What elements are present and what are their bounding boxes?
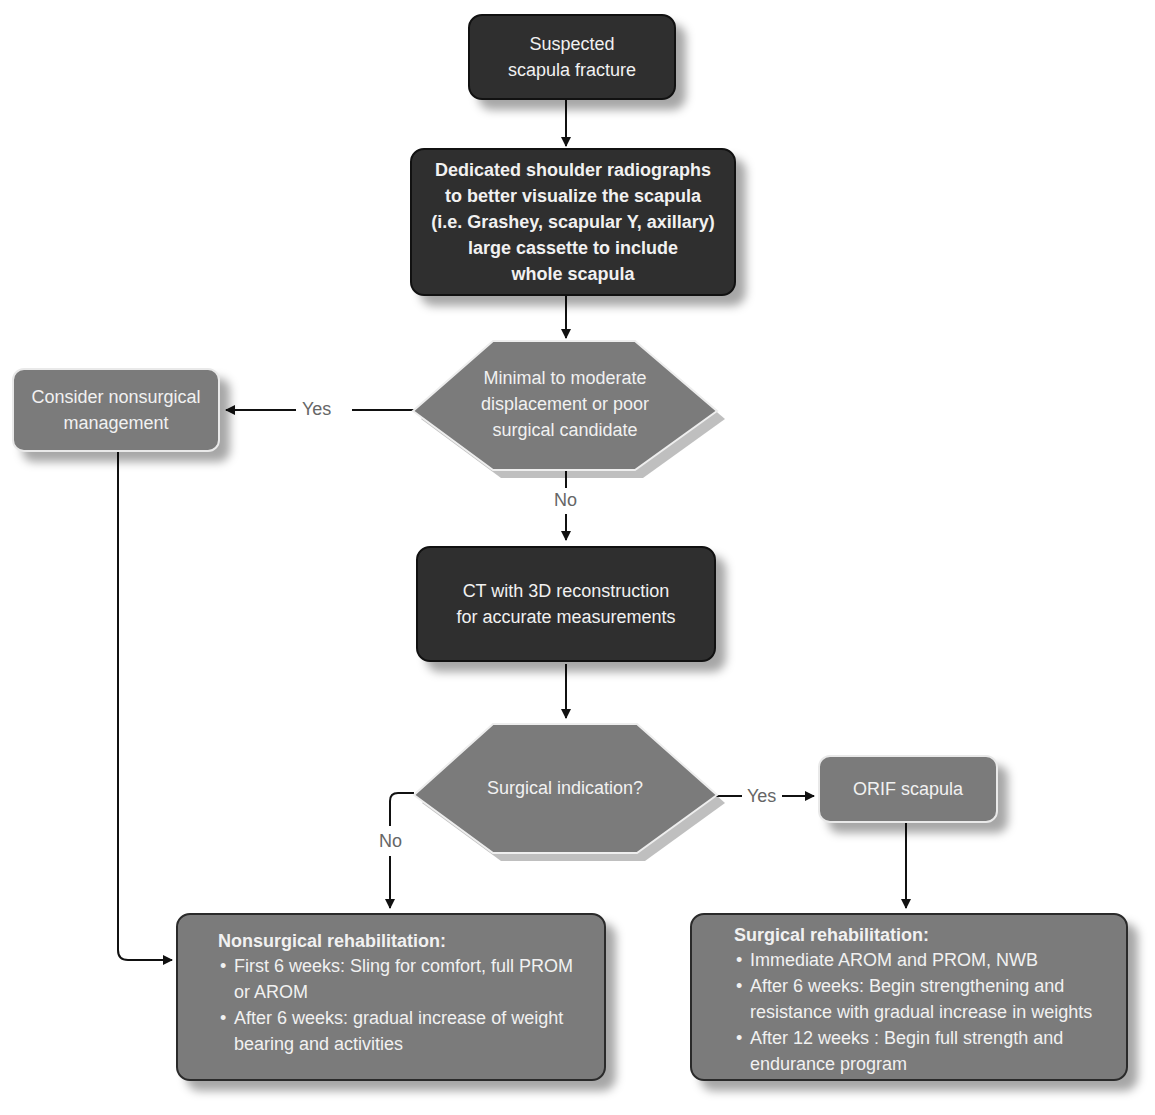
no-label: No [375,831,406,852]
yes-label: Yes [298,399,335,420]
radiographs-line: to better visualize the scapula [445,183,701,209]
radiographs-line: Dedicated shoulder radiographs [435,157,711,183]
surgical-decision: Surgical indication? [450,770,680,806]
radiographs-node: Dedicated shoulder radiographs to better… [410,148,736,296]
surgical-rehab-list: Immediate AROM and PROM, NWB After 6 wee… [734,947,1106,1077]
list-item: Immediate AROM and PROM, NWB [750,947,1106,973]
radiographs-line: large cassette to include [468,235,678,261]
surgical-rehab-title: Surgical rehabilitation: [734,923,1106,947]
start-node-label: Suspected scapula fracture [497,31,647,83]
orif-label: ORIF scapula [853,776,963,802]
list-item: First 6 weeks: Sling for comfort, full P… [234,953,584,1005]
list-item: After 6 weeks: gradual increase of weigh… [234,1005,584,1057]
nonsurgical-rehab-list: First 6 weeks: Sling for comfort, full P… [218,953,584,1057]
surgical-rehab-node: Surgical rehabilitation: Immediate AROM … [690,913,1128,1081]
list-item: After 12 weeks : Begin full strength and… [750,1025,1106,1077]
ct-node: CT with 3D reconstruction for accurate m… [416,546,716,662]
decision-line: surgical candidate [492,417,637,443]
displacement-decision: Minimal to moderate displacement or poor… [450,362,680,446]
start-node: Suspected scapula fracture [468,14,676,100]
nonsurgical-management-node: Consider nonsurgical management [12,368,220,452]
nonsurgical-rehab-node: Nonsurgical rehabilitation: First 6 week… [176,913,606,1081]
ct-line: for accurate measurements [456,604,675,630]
radiographs-line: whole scapula [511,261,634,287]
list-item: After 6 weeks: Begin strengthening and r… [750,973,1106,1025]
yes-label: Yes [743,786,780,807]
nonsurgical-rehab-title: Nonsurgical rehabilitation: [218,929,584,953]
nonsurgical-management-line: Consider nonsurgical [31,384,200,410]
surgical-decision-label: Surgical indication? [487,775,643,801]
orif-node: ORIF scapula [818,755,998,823]
decision-line: displacement or poor [481,391,649,417]
decision-line: Minimal to moderate [483,365,646,391]
radiographs-line: (i.e. Grashey, scapular Y, axillary) [431,209,715,235]
nonsurgical-management-line: management [63,410,168,436]
no-label: No [550,490,581,511]
ct-line: CT with 3D reconstruction [463,578,670,604]
